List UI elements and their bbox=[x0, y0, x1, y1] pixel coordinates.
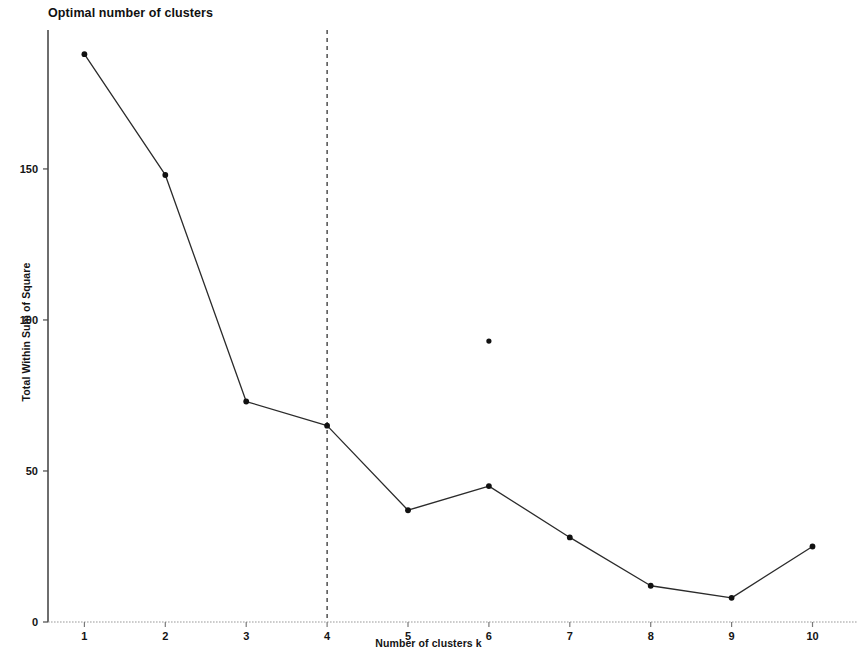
y-tick-label: 150 bbox=[0, 163, 38, 175]
x-axis-label: Number of clusters k bbox=[0, 637, 857, 649]
y-axis-label: Total Within Sum of Square bbox=[20, 222, 32, 442]
data-point-marker bbox=[729, 595, 735, 601]
series-markers bbox=[82, 51, 816, 600]
data-point-marker bbox=[243, 399, 249, 405]
wss-line bbox=[84, 54, 812, 598]
data-point-marker bbox=[82, 51, 88, 57]
series-line-path bbox=[84, 54, 812, 598]
data-point-marker bbox=[810, 544, 816, 550]
outlier-marker bbox=[486, 339, 491, 344]
data-point-marker bbox=[648, 583, 654, 589]
data-point-marker bbox=[405, 507, 411, 513]
axes bbox=[48, 30, 857, 622]
data-point-marker bbox=[486, 483, 492, 489]
y-tick-label: 100 bbox=[0, 314, 38, 326]
plot-area bbox=[0, 0, 857, 655]
outlier-markers bbox=[486, 339, 491, 344]
y-tick-label: 0 bbox=[0, 616, 38, 628]
x-axis-ticks bbox=[84, 622, 812, 627]
data-point-marker bbox=[567, 535, 573, 541]
data-point-marker bbox=[162, 172, 168, 178]
y-tick-label: 50 bbox=[0, 465, 38, 477]
data-point-marker bbox=[324, 423, 330, 429]
elbow-plot-figure: Optimal number of clusters 050100150 123… bbox=[0, 0, 857, 655]
